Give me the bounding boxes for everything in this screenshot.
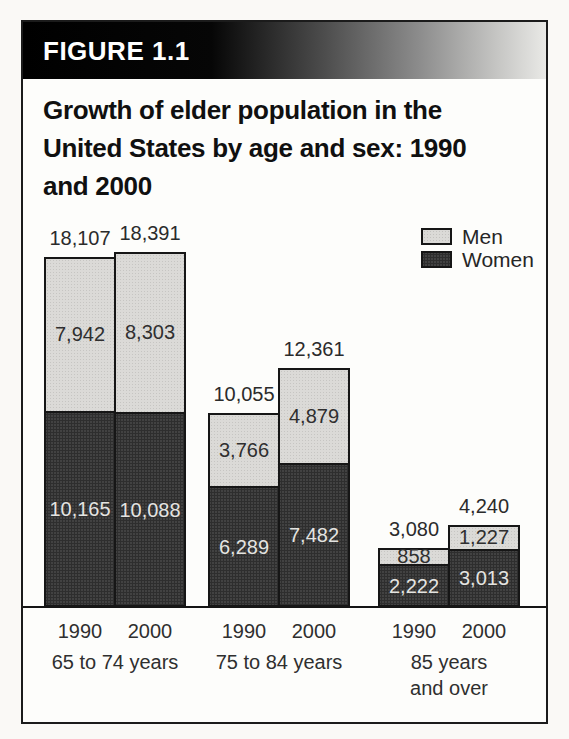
women-value-label: 7,482 [278, 524, 350, 546]
year-label: 1990 [204, 620, 284, 643]
men-value-label: 4,879 [278, 405, 350, 427]
total-value-label: 4,240 [429, 495, 539, 517]
year-label: 2000 [274, 620, 354, 643]
total-value-label: 18,391 [95, 222, 205, 244]
scanned-page: FIGURE 1.1 Growth of elder population in… [0, 0, 569, 739]
men-value-label: 8,303 [114, 321, 186, 343]
women-value-label: 10,088 [114, 499, 186, 521]
stacked-bar-chart: 18,1077,94210,165199018,3918,30310,08820… [23, 22, 546, 722]
group-label-line: 85 years [339, 649, 559, 675]
women-value-label: 6,289 [208, 536, 280, 558]
men-value-label: 858 [378, 545, 450, 567]
men-value-label: 1,227 [448, 526, 520, 548]
year-label: 1990 [40, 620, 120, 643]
women-value-label: 10,165 [44, 498, 116, 520]
total-value-label: 12,361 [259, 338, 369, 360]
women-value-label: 3,013 [448, 567, 520, 589]
year-label: 2000 [444, 620, 524, 643]
men-value-label: 7,942 [44, 323, 116, 345]
group-label: 85 yearsand over [339, 649, 559, 701]
women-value-label: 2,222 [378, 575, 450, 597]
men-value-label: 3,766 [208, 439, 280, 461]
year-label: 1990 [374, 620, 454, 643]
year-label: 2000 [110, 620, 190, 643]
figure-panel: FIGURE 1.1 Growth of elder population in… [21, 20, 548, 724]
group-label-line: and over [339, 675, 559, 701]
